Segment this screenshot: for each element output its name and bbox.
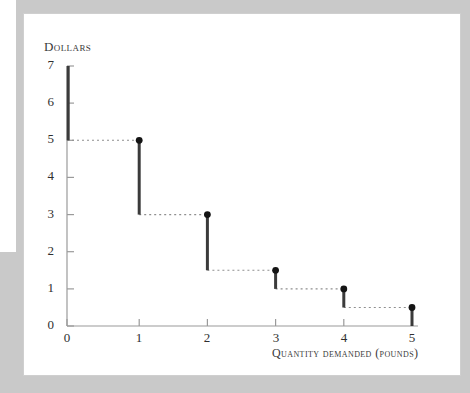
margin-notch bbox=[0, 0, 16, 252]
x-tick-label-4: 4 bbox=[335, 330, 353, 346]
step-drop-bars bbox=[68, 66, 412, 326]
x-tick-label-3: 3 bbox=[267, 330, 285, 346]
y-tick-label-1: 1 bbox=[36, 280, 54, 296]
y-tick-label-7: 7 bbox=[36, 57, 54, 73]
figure-card: Dollars Quantity demanded (pounds) 0 1 2… bbox=[23, 13, 461, 376]
y-tick-label-5: 5 bbox=[36, 131, 54, 147]
y-tick-label-6: 6 bbox=[36, 94, 54, 110]
y-tick-label-4: 4 bbox=[36, 168, 54, 184]
demand-step-chart bbox=[24, 14, 462, 377]
chart-plot-area: Dollars Quantity demanded (pounds) 0 1 2… bbox=[24, 14, 462, 377]
x-tick-label-5: 5 bbox=[403, 330, 421, 346]
x-axis-title: Quantity demanded (pounds) bbox=[272, 346, 418, 361]
y-tick-label-2: 2 bbox=[36, 243, 54, 259]
step-connectors bbox=[67, 140, 412, 307]
y-axis-title: Dollars bbox=[44, 39, 91, 55]
y-tick-label-3: 3 bbox=[36, 206, 54, 222]
x-tick-label-1: 1 bbox=[130, 330, 148, 346]
x-tick-label-2: 2 bbox=[198, 330, 216, 346]
x-tick-label-0: 0 bbox=[58, 330, 76, 346]
y-tick-label-0: 0 bbox=[36, 317, 54, 333]
x-axis-ticks bbox=[67, 319, 412, 326]
figure-frame: Dollars Quantity demanded (pounds) 0 1 2… bbox=[0, 0, 470, 393]
